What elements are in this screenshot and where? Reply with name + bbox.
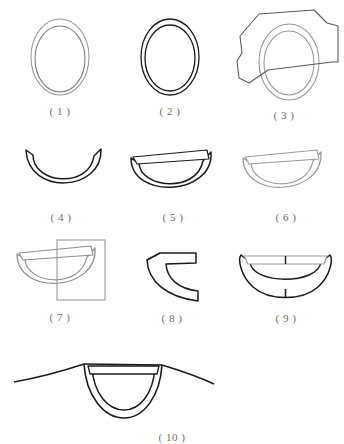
top-band bbox=[133, 150, 209, 164]
figure-5: ( 5 ) bbox=[118, 144, 228, 223]
figure-6-artwork bbox=[232, 144, 340, 206]
figure-6-label: ( 6 ) bbox=[276, 212, 297, 223]
collar-band bbox=[88, 366, 159, 374]
figure-4: ( 4 ) bbox=[6, 144, 116, 223]
figure-1-artwork bbox=[8, 14, 112, 100]
figure-3-artwork bbox=[226, 6, 342, 106]
figure-2: ( 2 ) bbox=[118, 14, 222, 117]
outer-oval bbox=[259, 24, 319, 100]
figure-2-artwork bbox=[118, 14, 222, 100]
figure-3-label: ( 3 ) bbox=[274, 110, 295, 121]
figure-8-artwork bbox=[126, 245, 218, 307]
figure-1: ( 1 ) bbox=[8, 14, 112, 117]
figure-7-artwork bbox=[4, 238, 116, 308]
figure-10-label: ( 10 ) bbox=[159, 432, 186, 443]
inner-oval bbox=[35, 26, 85, 92]
figure-4-label: ( 4 ) bbox=[51, 212, 72, 223]
figure-7-label: ( 7 ) bbox=[50, 312, 71, 323]
top-band bbox=[19, 246, 93, 260]
figure-5-artwork bbox=[118, 144, 228, 206]
figure-9-label: ( 9 ) bbox=[276, 313, 297, 324]
inner-oval bbox=[145, 25, 195, 91]
figure-9-artwork bbox=[232, 245, 340, 307]
overlay-polygon bbox=[237, 10, 338, 83]
outer-oval bbox=[141, 19, 199, 95]
inner-oval bbox=[264, 31, 314, 95]
crescent-bowl bbox=[26, 149, 101, 183]
outer-oval bbox=[31, 19, 89, 95]
top-band bbox=[245, 150, 319, 164]
figure-7: ( 7 ) bbox=[4, 238, 116, 323]
figure-1-label: ( 1 ) bbox=[50, 106, 71, 117]
right-shoulder-line bbox=[162, 365, 214, 384]
figure-10: ( 10 ) bbox=[14, 350, 330, 443]
figure-8-label: ( 8 ) bbox=[162, 313, 183, 324]
figure-3: ( 3 ) bbox=[226, 6, 342, 121]
figure-4-artwork bbox=[6, 144, 116, 206]
figure-sheet: ( 1 ) ( 2 ) ( 3 ) ( 4 ) bbox=[0, 0, 344, 444]
figure-2-label: ( 2 ) bbox=[160, 106, 181, 117]
c-bracket-segment bbox=[147, 253, 198, 301]
figure-9: ( 9 ) bbox=[232, 245, 340, 324]
figure-5-label: ( 5 ) bbox=[163, 212, 184, 223]
figure-8: ( 8 ) bbox=[126, 245, 218, 324]
figure-10-artwork bbox=[14, 350, 330, 430]
left-shoulder-line bbox=[14, 364, 84, 382]
figure-6: ( 6 ) bbox=[232, 144, 340, 223]
